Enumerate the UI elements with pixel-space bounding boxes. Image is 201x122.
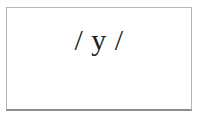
phoneme-figure-box: / y / [6, 7, 192, 111]
phoneme-notation-text: / y / [74, 25, 123, 55]
screenshot-canvas: / y / [0, 0, 201, 122]
